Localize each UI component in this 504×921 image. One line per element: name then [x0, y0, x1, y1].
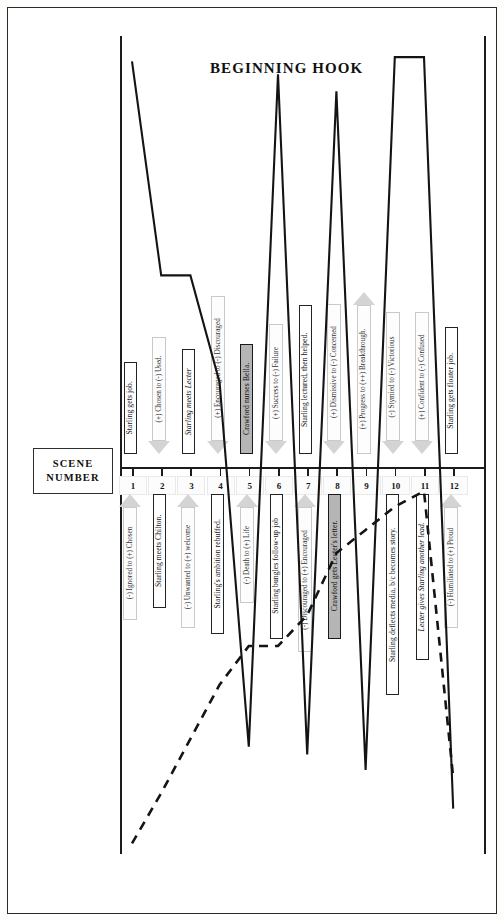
value-shift-text: (+) Progress to (++) Breakthrough.: [360, 329, 368, 430]
scene-event-text: Starling meets Lecter: [185, 368, 193, 435]
value-shift-text: (-) Discouraged to (+) Encouraged: [301, 530, 309, 629]
arrow-up-icon: [119, 494, 141, 507]
value-shift-shaft: (-) Stymied to (-) Victorious: [386, 312, 400, 441]
arrow-down-icon: [207, 441, 229, 454]
scene-event-label: Lecter gives Starling another lead.: [416, 494, 429, 660]
scene-number-4: 4: [207, 476, 235, 495]
value-shift-text: (-) Ignored to (+) Chosen: [126, 527, 134, 600]
value-shift-arrow: (-) Stymied to (-) Victorious: [381, 312, 405, 454]
value-shift-arrow: (+) Progress to (++) Breakthrough.: [352, 292, 376, 454]
scene-event-label: Starling gets floater job.: [445, 327, 458, 454]
page-title: BEGINNING HOOK: [210, 60, 363, 77]
scene-event-text: Crawford nurses Bella.: [243, 363, 251, 435]
value-shift-text: (+) Dismissive to (-) Concerned: [330, 326, 338, 418]
value-shift-text: (+) Confident to (-) Confused: [418, 334, 426, 419]
scene-event-text: Lecter gives Starling another lead.: [418, 523, 426, 632]
value-shift-arrow: (-) Ignored to (+) Chosen: [118, 494, 142, 620]
value-shift-shaft: (+) Success to (-) Failure: [269, 324, 283, 441]
arrow-up-icon: [294, 494, 316, 507]
scene-event-label: Starling meets Chilton.: [153, 494, 166, 608]
scene-event-text: Crawford gets Lecter's letter.: [331, 521, 339, 612]
plot-left-rule: [120, 36, 122, 854]
scene-number-9: 9: [353, 476, 381, 495]
plot-right-rule: [484, 36, 486, 854]
value-shift-text: (-) Humiliated to (+) Proud: [447, 528, 455, 606]
scene-number-legend-line2: NUMBER: [46, 471, 99, 485]
scene-number-7: 7: [294, 476, 322, 495]
scene-axis: [120, 467, 486, 469]
value-shift-text: (-) Stymied to (-) Victorious: [389, 336, 397, 417]
scene-event-text: Starling deflects media, b/c becomes sto…: [389, 527, 397, 661]
value-shift-shaft: (-) Humiliated to (+) Proud: [444, 507, 458, 628]
arrow-down-icon: [148, 441, 170, 454]
value-shift-arrow: (+) Confident to (-) Confused: [410, 312, 434, 454]
scene-number-2: 2: [148, 476, 176, 495]
value-shift-text: (-) Unwanted to (+) welcome: [184, 525, 192, 609]
arrow-down-icon: [382, 441, 404, 454]
scene-event-label: Crawford gets Lecter's letter.: [328, 494, 341, 639]
scene-event-text: Starling's ambition rebuffed.: [214, 519, 222, 609]
arrow-up-icon: [353, 292, 375, 305]
scene-number-11: 11: [411, 476, 439, 495]
value-shift-text: (-) Death to (+) Life: [243, 526, 251, 584]
scene-event-label: Crawford nurses Bella.: [240, 344, 253, 454]
value-shift-arrow: (+) Dismissive to (-) Concerned: [322, 304, 346, 454]
scene-number-3: 3: [177, 476, 205, 495]
scene-number-6: 6: [265, 476, 293, 495]
value-shift-arrow: (-) Death to (+) Life: [235, 494, 259, 603]
scene-event-label: Starling bungles follow-up job: [270, 494, 283, 639]
scene-event-label: Starling meets Lecter: [182, 349, 195, 454]
scene-event-label: Starling's ambition rebuffed.: [211, 494, 224, 634]
scene-event-label: Starling lectured, then helped.: [299, 305, 312, 454]
value-shift-arrow: (+) Encouraged to (-) Discouraged: [206, 296, 230, 454]
scene-event-text: Starling bungles follow-up job: [272, 518, 280, 614]
value-shift-shaft: (-) Unwanted to (+) welcome: [181, 507, 195, 628]
arrow-up-icon: [236, 494, 258, 507]
scene-event-text: Starling lectured, then helped.: [301, 332, 309, 426]
value-shift-shaft: (-) Death to (+) Life: [240, 507, 254, 603]
value-shift-shaft: (+) Dismissive to (-) Concerned: [327, 304, 341, 441]
scene-event-text: Starling meets Chilton.: [155, 515, 163, 588]
value-shift-text: (+) Success to (-) Failure: [272, 347, 280, 419]
scene-number-legend: SCENE NUMBER: [33, 448, 113, 494]
arrow-up-icon: [177, 494, 199, 507]
scene-event-label: Starling deflects media, b/c becomes sto…: [386, 494, 399, 695]
value-shift-text: (+) Chosen to (-) Used.: [155, 355, 163, 422]
value-shift-shaft: (-) Discouraged to (+) Encouraged: [298, 507, 312, 652]
arrow-down-icon: [265, 441, 287, 454]
scene-number-5: 5: [236, 476, 264, 495]
scene-event-text: Starling gets floater job.: [447, 352, 455, 428]
value-shift-arrow: (-) Discouraged to (+) Encouraged: [293, 494, 317, 652]
scene-number-12: 12: [440, 476, 468, 495]
scene-number-legend-line1: SCENE: [53, 457, 94, 471]
value-shift-arrow: (-) Unwanted to (+) welcome: [176, 494, 200, 628]
value-shift-shaft: (+) Progress to (++) Breakthrough.: [357, 305, 371, 454]
scene-number-8: 8: [323, 476, 351, 495]
scene-number-10: 10: [382, 476, 410, 495]
value-shift-shaft: (+) Encouraged to (-) Discouraged: [211, 296, 225, 441]
value-shift-shaft: (+) Confident to (-) Confused: [415, 312, 429, 441]
value-shift-shaft: (-) Ignored to (+) Chosen: [123, 507, 137, 620]
arrow-down-icon: [323, 441, 345, 454]
value-shift-arrow: (+) Success to (-) Failure: [264, 324, 288, 454]
value-shift-shaft: (+) Chosen to (-) Used.: [152, 337, 166, 441]
value-shift-arrow: (+) Chosen to (-) Used.: [147, 337, 171, 454]
scene-event-label: Starling gets job.: [124, 362, 137, 454]
arrow-down-icon: [411, 441, 433, 454]
scene-number-1: 1: [119, 476, 147, 495]
arrow-up-icon: [440, 494, 462, 507]
scene-event-text: Starling gets job.: [126, 381, 134, 434]
value-shift-text: (+) Encouraged to (-) Discouraged: [214, 319, 222, 418]
chart-page: BEGINNING HOOK SCENE NUMBER 123456789101…: [0, 0, 504, 921]
value-shift-arrow: (-) Humiliated to (+) Proud: [439, 494, 463, 628]
